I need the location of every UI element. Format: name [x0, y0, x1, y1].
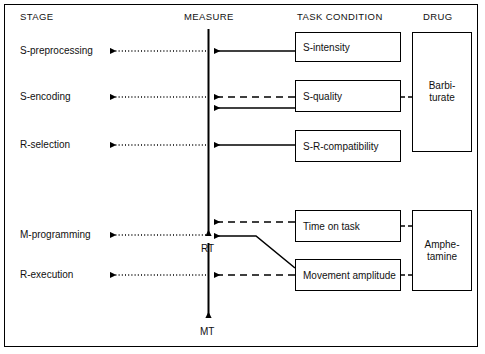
task-condition-box-s-quality[interactable]: S-quality [295, 80, 401, 112]
stage-label-s-preprocessing: S-preprocessing [20, 45, 93, 56]
drug-label-barbiturate: Barbi- turate [429, 80, 456, 104]
task-condition-box-movement-amplitude[interactable]: Movement amplitude [295, 259, 401, 291]
measure-label-rt: RT [201, 243, 214, 254]
stage-label-m-programming: M-programming [20, 229, 91, 240]
stage-label-r-execution: R-execution [20, 269, 73, 280]
task-condition-label-movement-amplitude: Movement amplitude [296, 270, 396, 281]
task-condition-label-time-on-task: Time on task [296, 221, 360, 232]
stage-label-s-encoding: S-encoding [20, 91, 71, 102]
column-header-drug: DRUG [423, 11, 453, 22]
drug-box-amphetamine[interactable]: Amphe- tamine [412, 210, 472, 291]
drug-label-amphetamine: Amphe- tamine [424, 239, 459, 263]
task-condition-box-s-r-compatibility[interactable]: S-R-compatibility [295, 130, 401, 162]
column-header-measure: MEASURE [184, 11, 234, 22]
drug-box-barbiturate[interactable]: Barbi- turate [412, 32, 472, 152]
measure-label-mt: MT [200, 326, 214, 337]
diagram-root: STAGE MEASURE TASK CONDITION DRUG S-prep… [0, 0, 485, 354]
task-condition-box-time-on-task[interactable]: Time on task [295, 210, 401, 242]
stage-label-r-selection: R-selection [20, 139, 70, 150]
column-header-task-condition: TASK CONDITION [297, 11, 383, 22]
task-condition-label-s-r-compatibility: S-R-compatibility [296, 141, 379, 152]
column-header-stage: STAGE [20, 11, 54, 22]
task-condition-label-s-intensity: S-intensity [296, 42, 350, 53]
task-condition-label-s-quality: S-quality [296, 91, 342, 102]
task-condition-box-s-intensity[interactable]: S-intensity [295, 32, 401, 62]
